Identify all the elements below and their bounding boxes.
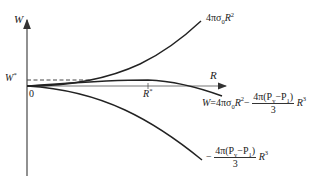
volume-term-label: − 4π(Pv−P1) 3 R3 [206,146,268,169]
total-energy-label: W=4πσ0R2− 4π(Pv−P1) 3 R3 [202,92,306,115]
surface-term-label: 4πσ0R2 [206,13,234,23]
origin-label: 0 [29,89,34,99]
volume-energy-curve [27,86,202,160]
y-axis-label: W [14,14,23,25]
diagram-canvas [0,0,322,180]
x-axis-label: R [210,70,217,81]
total-energy-curve [27,80,222,96]
r-star-label: R* [143,89,152,99]
surface-energy-curve [27,21,201,86]
w-star-label: W* [5,73,17,83]
